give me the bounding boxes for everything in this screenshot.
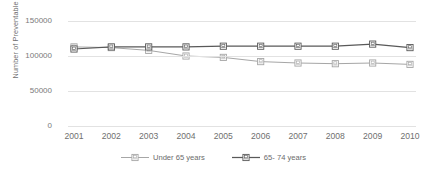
x-tick-label: 2004 (166, 131, 206, 141)
legend-entry-2[interactable]: 65- 74 years (231, 152, 306, 163)
gridline (68, 91, 416, 92)
y-tick-label: 150000 (0, 16, 52, 25)
x-tick-label: 2007 (278, 131, 318, 141)
x-tick-label: 2003 (129, 131, 169, 141)
y-tick-label: 100000 (0, 51, 52, 60)
data-point-marker (295, 43, 301, 49)
data-point-marker (71, 46, 77, 52)
x-tick-label: 2008 (315, 131, 355, 141)
data-point-marker (108, 44, 114, 50)
x-tick-label: 2005 (203, 131, 243, 141)
legend-label: Under 65 years (153, 153, 205, 162)
data-point-marker (332, 43, 338, 49)
legend-entry-1[interactable]: Under 65 years (120, 152, 205, 163)
legend-line-marker-icon (231, 152, 261, 163)
gridline (68, 21, 416, 22)
y-tick-label: 0 (0, 121, 52, 130)
x-tick-label: 2009 (353, 131, 393, 141)
gridline (68, 126, 416, 127)
data-point-marker (332, 61, 338, 67)
series-2 (71, 41, 413, 52)
x-tick-label: 2001 (54, 131, 94, 141)
data-point-marker (370, 41, 376, 47)
data-point-marker (220, 43, 226, 49)
x-tick-label: 2002 (91, 131, 131, 141)
data-point-marker (295, 60, 301, 66)
data-point-marker (183, 44, 189, 50)
plot-area: 0500001000001500002001200220032004200520… (68, 21, 416, 126)
data-point-marker (146, 44, 152, 50)
data-point-marker (407, 61, 413, 67)
preventable-deaths-line-chart: Number of Preventable Deaths 05000010000… (0, 0, 426, 176)
y-axis-title: Number of Preventable Deaths (11, 0, 25, 83)
x-tick-label: 2006 (241, 131, 281, 141)
data-point-marker (370, 60, 376, 66)
x-tick-label: 2010 (390, 131, 426, 141)
chart-legend: Under 65 years65- 74 years (0, 152, 426, 163)
legend-line-marker-icon (120, 152, 150, 163)
data-point-marker (407, 45, 413, 51)
series-layer (68, 21, 416, 126)
gridline (68, 56, 416, 57)
legend-label: 65- 74 years (264, 153, 306, 162)
legend-marker (243, 154, 249, 160)
data-point-marker (258, 59, 264, 65)
legend-marker (132, 154, 138, 160)
y-tick-label: 50000 (0, 86, 52, 95)
data-point-marker (258, 43, 264, 49)
